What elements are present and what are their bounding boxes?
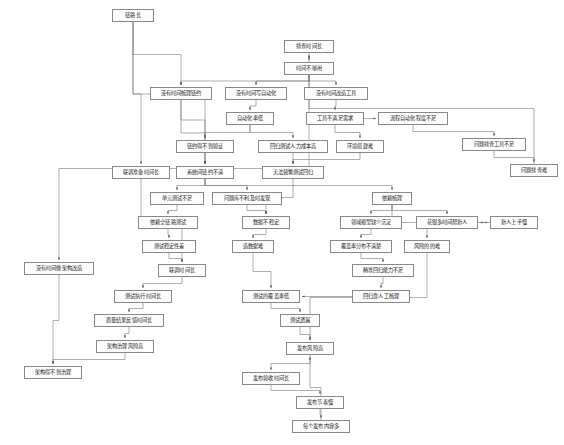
diagram-node[interactable]: 链路长 xyxy=(112,9,154,22)
diagram-node-label: 发布风险高 xyxy=(297,346,323,351)
diagram-node-label: 系统间链约不清 xyxy=(187,170,223,175)
diagram-node[interactable]: 数据不稳定 xyxy=(242,216,290,229)
diagram-node-label: 精准回归能力不足 xyxy=(363,268,404,273)
diagram-node[interactable]: 风险的的难 xyxy=(404,240,450,253)
diagram-node[interactable]: 排查时间长 xyxy=(284,40,334,53)
diagram-node[interactable]: 覆盖率分布不清楚 xyxy=(330,240,392,253)
diagram-node-label: 回归靠人工梳理 xyxy=(363,294,399,299)
diagram-node[interactable]: 回归测试人力成本高 xyxy=(258,140,328,153)
diagram-node-label: 测试的覆盖率低 xyxy=(253,294,289,299)
diagram-node[interactable]: 发布验收时间长 xyxy=(242,372,300,385)
diagram-node[interactable]: 联调时间长 xyxy=(158,264,206,277)
diagram-node-label: 造数据难 xyxy=(243,244,263,249)
diagram-node[interactable]: 问题排查工具不足 xyxy=(462,138,526,151)
diagram-node[interactable]: 新人上手慢 xyxy=(490,216,538,229)
diagram-node-label: 单元测试不足 xyxy=(162,196,193,201)
diagram-node-label: 测试稳定性差 xyxy=(154,244,185,249)
diagram-node[interactable]: 造数据难 xyxy=(232,240,274,253)
diagram-node[interactable]: 依赖全链路测试 xyxy=(138,216,198,229)
diagram-node-label: 质量结果反馈时间长 xyxy=(106,318,152,323)
node-layer: 链路长排查时间长时间不够用没有时间梳理链约没有时间写自动化没有时间改造工具自动化… xyxy=(0,0,564,445)
diagram-node[interactable]: 测试稳定性差 xyxy=(142,240,196,253)
diagram-node-label: 问题排查难 xyxy=(521,168,547,173)
diagram-node-label: 发布验收时间长 xyxy=(253,376,289,381)
diagram-node[interactable]: 没有时间梳理链约 xyxy=(150,87,212,100)
diagram-node[interactable]: 发布风险高 xyxy=(286,342,334,355)
diagram-node-label: 时间不够用 xyxy=(296,66,322,71)
diagram-node[interactable]: 环境搭建难 xyxy=(336,140,384,153)
diagram-node[interactable]: 领域模型缺少沉淀 xyxy=(340,216,402,229)
diagram-node[interactable]: 流程自动化程度不足 xyxy=(378,112,448,125)
diagram-node-label: 没有时间做架构改造 xyxy=(36,266,82,271)
diagram-node-label: 架构治理风险高 xyxy=(107,344,143,349)
diagram-node-label: 链路长 xyxy=(125,13,140,18)
diagram-node-label: 链约得不到验证 xyxy=(187,144,223,149)
diagram-node-label: 环境搭建难 xyxy=(347,144,373,149)
diagram-node[interactable]: 每个发布内容多 xyxy=(292,420,350,433)
diagram-node-label: 自动化率低 xyxy=(237,116,263,121)
diagram-node[interactable]: 无法频繁测试回归 xyxy=(262,166,324,179)
diagram-node[interactable]: 测试的覆盖率低 xyxy=(242,290,300,303)
diagram-node[interactable]: 没有时间改造工具 xyxy=(304,87,368,100)
diagram-node[interactable]: 问题库不利及时发现 xyxy=(212,192,282,205)
diagram-node[interactable]: 花很多时间帮新人 xyxy=(416,216,478,229)
diagram-node[interactable]: 问题排查难 xyxy=(510,164,558,177)
diagram-node[interactable]: 回归靠人工梳理 xyxy=(352,290,410,303)
diagram-node-label: 数据不稳定 xyxy=(253,220,279,225)
diagram-node-label: 回归测试人力成本高 xyxy=(270,144,316,149)
diagram-node-label: 问题库不利及时发现 xyxy=(224,196,270,201)
diagram-node-label: 依赖梳理 xyxy=(382,196,402,201)
diagram-node[interactable]: 没有时间做架构改造 xyxy=(24,262,94,275)
diagram-node[interactable]: 精准回归能力不足 xyxy=(352,264,414,277)
diagram-node[interactable]: 时间不够用 xyxy=(284,62,334,75)
diagram-node-label: 风险的的难 xyxy=(414,244,440,249)
diagram-node[interactable]: 发布节奏慢 xyxy=(296,396,344,409)
diagram-node-label: 工具不满足需求 xyxy=(317,116,353,121)
diagram-node-label: 没有时间改造工具 xyxy=(316,91,357,96)
diagram-node[interactable]: 依赖梳理 xyxy=(372,192,412,205)
diagram-node-label: 测试遗漏 xyxy=(290,318,310,323)
diagram-node-label: 花很多时间帮新人 xyxy=(427,220,468,225)
diagram-node-label: 排查时间长 xyxy=(296,44,322,49)
diagram-node-label: 每个发布内容多 xyxy=(303,424,339,429)
diagram-canvas: 链路长排查时间长时间不够用没有时间梳理链约没有时间写自动化没有时间改造工具自动化… xyxy=(0,0,564,445)
diagram-node-label: 领域模型缺少沉淀 xyxy=(351,220,392,225)
diagram-node-label: 覆盖率分布不清楚 xyxy=(341,244,382,249)
diagram-node[interactable]: 架构得不到治理 xyxy=(24,366,82,379)
diagram-node-label: 流程自动化程度不足 xyxy=(390,116,436,121)
diagram-node-label: 无法频繁测试回归 xyxy=(273,170,314,175)
diagram-node[interactable]: 单元测试不足 xyxy=(150,192,204,205)
diagram-node-label: 依赖全链路测试 xyxy=(150,220,186,225)
diagram-node[interactable]: 质量结果反馈时间长 xyxy=(94,314,164,327)
diagram-node[interactable]: 系统间链约不清 xyxy=(176,166,234,179)
diagram-node-label: 发布节奏慢 xyxy=(307,400,333,405)
diagram-node-label: 联调准备时间长 xyxy=(123,170,159,175)
diagram-node-label: 问题排查工具不足 xyxy=(474,142,515,147)
diagram-node-label: 测试执行时间长 xyxy=(125,294,161,299)
diagram-node[interactable]: 测试执行时间长 xyxy=(114,290,172,303)
diagram-node[interactable]: 测试遗漏 xyxy=(280,314,320,327)
diagram-node-label: 没有时间梳理链约 xyxy=(161,91,202,96)
diagram-node-label: 没有时间写自动化 xyxy=(236,91,277,96)
diagram-node-label: 架构得不到治理 xyxy=(35,370,71,375)
diagram-node[interactable]: 没有时间写自动化 xyxy=(225,87,287,100)
diagram-node[interactable]: 联调准备时间长 xyxy=(112,166,170,179)
diagram-node-label: 联调时间长 xyxy=(169,268,195,273)
diagram-node[interactable]: 工具不满足需求 xyxy=(306,112,364,125)
diagram-node[interactable]: 链约得不到验证 xyxy=(176,140,234,153)
diagram-node[interactable]: 自动化率低 xyxy=(226,112,274,125)
diagram-node-label: 新人上手慢 xyxy=(501,220,527,225)
diagram-node[interactable]: 架构治理风险高 xyxy=(96,340,154,353)
